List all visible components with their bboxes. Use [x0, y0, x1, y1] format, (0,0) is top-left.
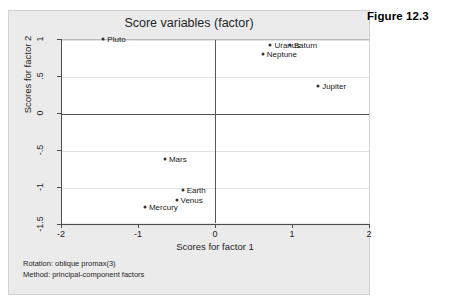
data-point-label: Neptune	[267, 49, 297, 58]
y-axis-tick	[57, 150, 61, 151]
y-axis-tick	[57, 76, 61, 77]
chart-title: Score variables (factor)	[9, 16, 369, 30]
plot-area	[61, 39, 369, 223]
data-point-marker	[261, 52, 264, 55]
x-axis-tick	[215, 224, 216, 228]
data-point-marker	[163, 157, 166, 160]
data-point-marker	[269, 43, 272, 46]
y-axis-tick-label: -1	[35, 178, 45, 196]
data-point-marker	[175, 199, 178, 202]
x-axis-tick	[138, 224, 139, 228]
x-axis-tick	[369, 224, 370, 228]
footnotes: Rotation: oblique promax(3) Method: prin…	[23, 259, 144, 281]
y-axis-tick	[57, 39, 61, 40]
data-point-label: Mars	[169, 154, 187, 163]
y-axis-tick	[57, 113, 61, 114]
data-point-marker	[317, 84, 320, 87]
y-axis-tick	[57, 187, 61, 188]
y-axis-tick-label: .5	[35, 67, 45, 85]
figure-caption: Figure 12.3	[367, 10, 447, 22]
x-axis-tick	[61, 224, 62, 228]
x-axis-tick-label: 1	[289, 229, 294, 239]
y-axis-tick-label: -.5	[35, 141, 45, 159]
footnote-rotation: Rotation: oblique promax(3)	[23, 259, 144, 270]
data-point-label: Jupiter	[322, 81, 346, 90]
x-axis-tick-label: -2	[57, 229, 65, 239]
data-point-label: Pluto	[107, 35, 125, 44]
data-point-label: Mercury	[149, 202, 178, 211]
y-axis-tick-label: -1.5	[35, 215, 45, 233]
footnote-method: Method: principal-component factors	[23, 270, 144, 281]
x-axis-tick-label: 2	[366, 229, 371, 239]
data-point-label: Saturn	[294, 40, 318, 49]
figure-panel: Score variables (factor) Scores for fact…	[8, 10, 370, 295]
x-axis-title: Scores for factor 1	[61, 241, 369, 252]
x-axis-tick-label: 0	[212, 229, 217, 239]
x-axis-tick-label: -1	[134, 229, 142, 239]
y-axis-title: Scores for factor 2	[22, 13, 33, 137]
y-axis-spine	[61, 39, 62, 224]
data-point-label: Venus	[181, 196, 203, 205]
zero-reference-line-vertical	[215, 40, 216, 223]
data-point-label: Earth	[187, 185, 206, 194]
data-point-marker	[102, 38, 105, 41]
y-axis-tick-label: 1	[35, 30, 45, 48]
data-point-marker	[143, 205, 146, 208]
data-point-marker	[181, 188, 184, 191]
data-point-marker	[288, 43, 291, 46]
y-axis-tick-label: 0	[35, 104, 45, 122]
x-axis-tick	[292, 224, 293, 228]
